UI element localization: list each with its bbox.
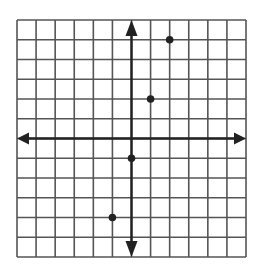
x-axis-left-arrow-icon (17, 133, 29, 145)
data-point (166, 36, 174, 44)
data-point (128, 154, 136, 162)
data-point (109, 214, 117, 222)
x-axis-right-arrow-icon (234, 133, 246, 145)
coordinate-plane (0, 0, 258, 275)
data-point (147, 95, 155, 103)
y-axis-down-arrow-icon (126, 241, 138, 257)
y-axis-up-arrow-icon (126, 20, 138, 36)
axes (17, 20, 246, 257)
data-points (109, 36, 174, 221)
